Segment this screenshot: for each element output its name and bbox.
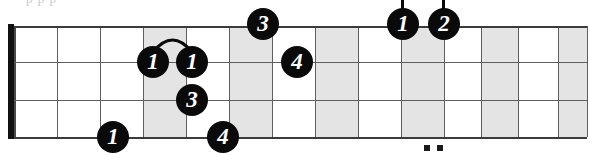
cropped-text: p p p — [26, 0, 57, 6]
fret-shade-9 — [401, 26, 444, 137]
fret-line-11 — [481, 26, 482, 137]
fret-line-0 — [14, 26, 16, 137]
finger-marker-3[interactable]: 3 — [247, 8, 279, 40]
fret-line-13 — [558, 26, 559, 137]
cropped-text-sliver: p p p — [0, 0, 590, 9]
fret-shade-11 — [481, 26, 518, 137]
fretboard-grid — [14, 26, 587, 137]
position-inlay-dot — [424, 145, 430, 151]
finger-marker-1[interactable]: 1 — [97, 121, 129, 153]
fret-line-2 — [100, 26, 101, 137]
finger-marker-1[interactable]: 1 — [387, 8, 419, 40]
fret-shade-13 — [558, 26, 587, 137]
finger-marker-4[interactable]: 4 — [207, 121, 239, 153]
fret-line-12 — [518, 26, 519, 137]
fret-line-7 — [315, 26, 316, 137]
fret-shade-7 — [315, 26, 358, 137]
slur-1 — [137, 30, 208, 56]
fret-shade-5 — [229, 26, 272, 137]
fret-line-1 — [57, 26, 58, 137]
finger-marker-2[interactable]: 2 — [428, 8, 460, 40]
fret-line-5 — [229, 26, 230, 137]
fret-line-10 — [444, 26, 445, 137]
fret-line-6 — [272, 26, 273, 137]
fret-line-14 — [587, 26, 588, 137]
fretboard-diagram: p p p 113431412 — [0, 0, 590, 154]
fret-line-9 — [401, 26, 402, 137]
position-inlay-dot — [437, 145, 443, 151]
fret-line-8 — [358, 26, 359, 137]
finger-marker-4[interactable]: 4 — [281, 46, 313, 78]
string-line-2 — [14, 100, 587, 101]
finger-marker-3[interactable]: 3 — [176, 84, 208, 116]
string-line-0 — [14, 26, 587, 28]
